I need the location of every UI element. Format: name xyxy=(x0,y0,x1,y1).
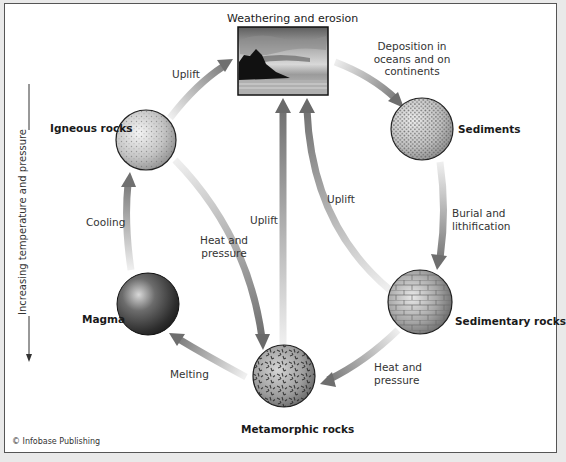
metamorphic-rocks-label: Metamorphic rocks xyxy=(241,423,354,435)
arrow-burial xyxy=(431,162,447,270)
heat-label-line-1: Heat and xyxy=(374,361,422,374)
weathering-photo xyxy=(238,27,328,95)
copyright-credit: © Infobase Publishing xyxy=(12,437,100,446)
metamorphic-rocks-sphere xyxy=(253,345,315,407)
igneous-heat-pressure-label: Heat and pressure xyxy=(196,234,252,259)
heat-label-line-2: pressure xyxy=(374,374,422,387)
sedimentary-rocks-sphere xyxy=(388,270,452,334)
deposition-label-line-2: oceans and on xyxy=(372,53,452,66)
magma-sphere xyxy=(117,273,179,335)
sediments-label: Sediments xyxy=(458,123,521,135)
side-axis: Increasing temperature and pressure xyxy=(22,80,36,365)
deposition-label-line-3: continents xyxy=(372,65,452,78)
igneous-rocks-sphere xyxy=(116,110,176,170)
igneous-uplift-label: Uplift xyxy=(172,68,200,81)
burial-label-line-2: lithification xyxy=(452,220,510,233)
sediments-sphere xyxy=(391,98,453,160)
burial-lithification-label: Burial and lithification xyxy=(452,207,510,232)
ign-heat-label-line-2: pressure xyxy=(196,247,252,260)
side-axis-label: Increasing temperature and pressure xyxy=(16,122,30,322)
melting-label: Melting xyxy=(170,368,209,381)
cooling-label: Cooling xyxy=(86,216,125,229)
burial-label-line-1: Burial and xyxy=(452,207,510,220)
metamorphic-uplift-label: Uplift xyxy=(250,214,278,227)
sedimentary-uplift-label: Uplift xyxy=(327,193,355,206)
sedimentary-heat-pressure-label: Heat and pressure xyxy=(374,361,422,386)
deposition-label-line-1: Deposition in xyxy=(372,40,452,53)
weathering-erosion-title: Weathering and erosion xyxy=(227,12,358,25)
deposition-label: Deposition in oceans and on continents xyxy=(372,40,452,78)
ign-heat-label-line-1: Heat and xyxy=(196,234,252,247)
igneous-rocks-label: Igneous rocks xyxy=(50,122,132,134)
sedimentary-rocks-label: Sedimentary rocks xyxy=(455,315,566,327)
magma-label: Magma xyxy=(82,313,125,325)
